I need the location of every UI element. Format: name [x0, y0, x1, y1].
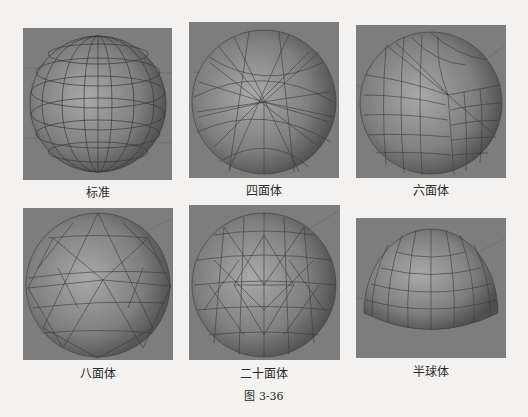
icosahedron-sphere-image: [189, 205, 340, 360]
octahedron-sphere-image: [23, 208, 173, 360]
caption-tetrahedron: 四面体: [189, 181, 339, 198]
standard-sphere-image: [23, 28, 172, 180]
caption-icosahedron: 二十面体: [189, 364, 339, 381]
figure-label: 图 3-36: [204, 387, 324, 403]
tetrahedron-sphere-image: [189, 22, 339, 178]
caption-octahedron: 八面体: [23, 364, 173, 381]
hexahedron-sphere-image: [356, 25, 506, 178]
caption-hemisphere: 半球体: [356, 362, 506, 379]
caption-hexahedron: 六面体: [356, 181, 506, 198]
caption-standard: 标准: [23, 183, 173, 200]
hemisphere-image: [356, 218, 506, 358]
